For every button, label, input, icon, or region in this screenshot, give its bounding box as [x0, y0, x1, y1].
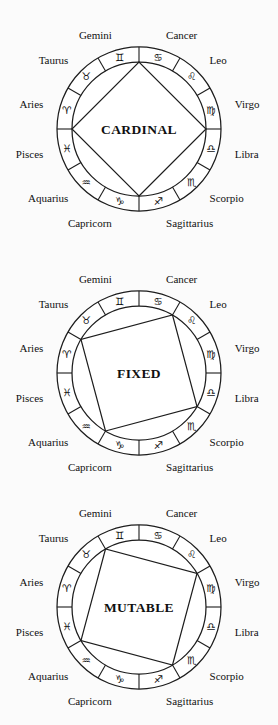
sign-label-taurus: Taurus: [39, 532, 69, 544]
sign-label-sagittarius: Sagittarius: [166, 217, 213, 229]
wheel-canvas-fixed: ♈Aries♉Taurus♊Gemini♋Cancer♌Leo♍Virgo♎Li…: [0, 256, 278, 491]
modality-title-mutable: MUTABLE: [104, 600, 174, 615]
virgo-glyph: ♍: [206, 104, 215, 116]
sign-label-cancer: Cancer: [166, 273, 197, 285]
taurus-glyph: ♉: [82, 314, 91, 326]
cancer-glyph: ♋: [154, 529, 163, 541]
sign-label-aquarius: Aquarius: [28, 670, 68, 682]
sagittarius-glyph: ♐: [154, 673, 163, 685]
sign-label-aquarius: Aquarius: [28, 192, 68, 204]
sign-label-sagittarius: Sagittarius: [166, 695, 213, 707]
gemini-glyph: ♊: [115, 529, 124, 541]
sign-label-pisces: Pisces: [16, 626, 44, 638]
aries-glyph: ♈: [62, 582, 71, 594]
sign-label-scorpio: Scorpio: [210, 436, 245, 448]
sign-label-capricorn: Capricorn: [68, 461, 112, 473]
zodiac-wheel-mutable: ♈Aries♉Taurus♊Gemini♋Cancer♌Leo♍Virgo♎Li…: [0, 490, 278, 725]
scorpio-glyph: ♏: [187, 420, 197, 432]
sign-label-gemini: Gemini: [79, 29, 112, 41]
wheel-canvas-cardinal: ♈Aries♉Taurus♊Gemini♋Cancer♌Leo♍Virgo♎Li…: [0, 12, 278, 247]
pisces-glyph: ♓: [62, 620, 71, 632]
sign-label-aquarius: Aquarius: [28, 436, 68, 448]
virgo-glyph: ♍: [206, 582, 215, 594]
capricorn-glyph: ♑: [115, 439, 124, 451]
sign-label-scorpio: Scorpio: [210, 192, 245, 204]
sign-label-sagittarius: Sagittarius: [166, 461, 213, 473]
sign-label-taurus: Taurus: [39, 298, 69, 310]
sign-label-taurus: Taurus: [39, 54, 69, 66]
capricorn-glyph: ♑: [115, 195, 124, 207]
sign-label-pisces: Pisces: [16, 392, 44, 404]
scorpio-glyph: ♏: [187, 176, 197, 188]
zodiac-modality-figure: ♈Aries♉Taurus♊Gemini♋Cancer♌Leo♍Virgo♎Li…: [0, 0, 278, 725]
modality-title-fixed: FIXED: [117, 366, 161, 381]
virgo-glyph: ♍: [206, 348, 215, 360]
sign-label-libra: Libra: [235, 626, 259, 638]
sign-label-gemini: Gemini: [79, 507, 112, 519]
capricorn-glyph: ♑: [115, 673, 124, 685]
aquarius-glyph: ♒: [82, 420, 91, 432]
sign-label-aries: Aries: [19, 98, 43, 110]
libra-glyph: ♎: [206, 620, 215, 632]
sign-label-leo: Leo: [210, 298, 228, 310]
pisces-glyph: ♓: [62, 142, 71, 154]
sign-label-pisces: Pisces: [16, 148, 44, 160]
leo-glyph: ♌: [187, 314, 196, 326]
sagittarius-glyph: ♐: [154, 439, 163, 451]
sagittarius-glyph: ♐: [154, 195, 163, 207]
sign-label-cancer: Cancer: [166, 507, 197, 519]
sign-label-aries: Aries: [19, 342, 43, 354]
scorpio-glyph: ♏: [187, 654, 197, 666]
pisces-glyph: ♓: [62, 386, 71, 398]
libra-glyph: ♎: [206, 386, 215, 398]
sign-label-virgo: Virgo: [235, 576, 260, 588]
sign-label-capricorn: Capricorn: [68, 695, 112, 707]
taurus-glyph: ♉: [82, 548, 91, 560]
sign-label-leo: Leo: [210, 54, 228, 66]
taurus-glyph: ♉: [82, 70, 91, 82]
aries-glyph: ♈: [62, 104, 71, 116]
sign-label-virgo: Virgo: [235, 98, 260, 110]
sign-label-gemini: Gemini: [79, 273, 112, 285]
sign-label-virgo: Virgo: [235, 342, 260, 354]
aquarius-glyph: ♒: [82, 654, 91, 666]
sign-label-libra: Libra: [235, 392, 259, 404]
scan-artifact: [212, 2, 220, 7]
sign-label-capricorn: Capricorn: [68, 217, 112, 229]
cancer-glyph: ♋: [154, 295, 163, 307]
cancer-glyph: ♋: [154, 51, 163, 63]
zodiac-wheel-cardinal: ♈Aries♉Taurus♊Gemini♋Cancer♌Leo♍Virgo♎Li…: [0, 12, 278, 247]
sign-label-scorpio: Scorpio: [210, 670, 245, 682]
libra-glyph: ♎: [206, 142, 215, 154]
leo-glyph: ♌: [187, 548, 196, 560]
aries-glyph: ♈: [62, 348, 71, 360]
zodiac-wheel-fixed: ♈Aries♉Taurus♊Gemini♋Cancer♌Leo♍Virgo♎Li…: [0, 256, 278, 491]
aquarius-glyph: ♒: [82, 176, 91, 188]
sign-label-aries: Aries: [19, 576, 43, 588]
sign-label-cancer: Cancer: [166, 29, 197, 41]
scan-artifact: [172, 2, 179, 7]
sign-label-leo: Leo: [210, 532, 228, 544]
wheel-canvas-mutable: ♈Aries♉Taurus♊Gemini♋Cancer♌Leo♍Virgo♎Li…: [0, 490, 278, 725]
leo-glyph: ♌: [187, 70, 196, 82]
sign-label-libra: Libra: [235, 148, 259, 160]
gemini-glyph: ♊: [115, 295, 124, 307]
gemini-glyph: ♊: [115, 51, 124, 63]
modality-title-cardinal: CARDINAL: [101, 122, 177, 137]
